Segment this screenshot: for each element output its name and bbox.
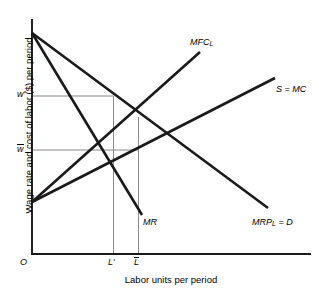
y-axis-title: Wage rate and cost of labor ($) per peri… <box>23 28 34 224</box>
curve-mrp-l-demand <box>32 33 268 208</box>
plot-canvas <box>0 0 319 288</box>
x-tick-label-l-prime: L′ <box>108 258 115 267</box>
y-tick-label-w-prime: w′ <box>17 90 25 99</box>
curve-label-mr-base: MR <box>143 217 157 227</box>
curve-label-mfc-l: MFCL <box>190 38 213 47</box>
curve-label-mrp-equals-d: = D <box>276 217 293 227</box>
curve-label-mfc-subscript: L <box>210 40 214 47</box>
x-tick-l-prime-mark: ′ <box>113 257 115 267</box>
curves <box>32 33 275 215</box>
curve-s-mc-supply <box>32 78 275 202</box>
curve-label-mrp-base: MRP <box>252 217 272 227</box>
x-tick-l-bar-base: L <box>134 258 139 267</box>
curve-label-s-mc: S = MC <box>276 85 306 94</box>
y-tick-label-w-bar: w <box>17 145 24 154</box>
curve-label-mfc-base: MFC <box>190 37 210 47</box>
origin-label: O <box>20 258 27 267</box>
curve-label-mrp-l: MRPL = D <box>252 218 293 227</box>
monopsony-labor-market-diagram: Wage rate and cost of labor ($) per peri… <box>0 0 319 288</box>
curve-label-mr: MR <box>143 218 157 227</box>
curve-label-s-mc-base: S = MC <box>276 84 306 94</box>
y-tick-w-prime-mark: ′ <box>24 89 26 99</box>
x-tick-label-l-bar: L <box>134 258 139 267</box>
x-axis-title: Labor units per period <box>32 274 310 285</box>
y-tick-w-bar-base: w <box>17 145 24 154</box>
